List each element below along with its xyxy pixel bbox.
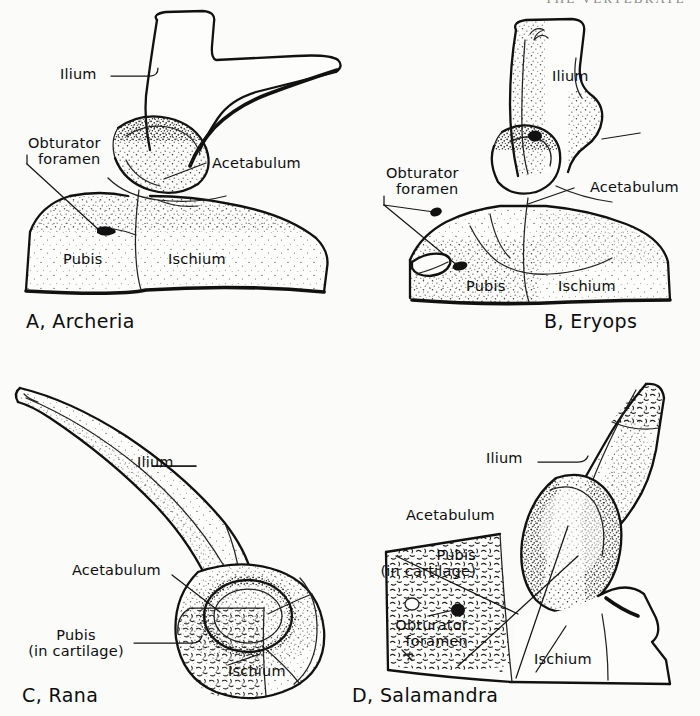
panel-d-drawing xyxy=(350,366,700,716)
label-pubis-d-line2: (in cartilage) xyxy=(354,564,476,580)
panel-c-rana: Ilium Acetabulum Pubis (in cartilage) Is… xyxy=(0,366,350,716)
panel-a-drawing xyxy=(0,0,350,350)
label-ilium-b: Ilium xyxy=(552,68,589,84)
panel-d-salamandra: Ilium Acetabulum Pubis (in cartilage) Ob… xyxy=(350,366,700,716)
label-obturator-foramen-a-line2: foramen xyxy=(28,152,101,168)
panel-a-archeria: Ilium Obturator foramen Acetabulum Pubis… xyxy=(0,0,350,350)
caption-panel-b: B, Eryops xyxy=(544,310,637,332)
panel-c-drawing xyxy=(0,366,350,716)
label-obturator-foramen-d-line2: foramen xyxy=(350,634,468,650)
caption-panel-a: A, Archeria xyxy=(26,310,135,332)
label-pubis-c-line1: Pubis xyxy=(18,628,134,644)
label-obturator-foramen-d: Obturator foramen xyxy=(350,618,468,649)
label-obturator-foramen-a: Obturator foramen xyxy=(28,136,101,167)
label-ischium-d: Ischium xyxy=(534,651,592,667)
label-acetabulum-a: Acetabulum xyxy=(212,155,301,171)
label-pubis-c: Pubis (in cartilage) xyxy=(18,628,134,659)
label-ilium-a: Ilium xyxy=(60,66,97,82)
figure-plate: THE VERTEBRATE xyxy=(0,0,700,716)
caption-panel-c: C, Rana xyxy=(22,684,98,706)
panel-b-eryops: Ilium Obturator foramen Acetabulum Pubis… xyxy=(350,0,700,350)
label-ischium-a: Ischium xyxy=(168,251,226,267)
label-obturator-foramen-a-line1: Obturator xyxy=(28,136,101,152)
label-pubis-d-line1: Pubis xyxy=(354,548,476,564)
label-obturator-foramen-b-line1: Obturator xyxy=(386,166,459,182)
label-ischium-c: Ischium xyxy=(228,663,286,679)
caption-panel-d: D, Salamandra xyxy=(352,684,498,706)
label-obturator-foramen-b: Obturator foramen xyxy=(386,166,459,197)
label-pubis-c-line2: (in cartilage) xyxy=(18,644,134,660)
label-pubis-a: Pubis xyxy=(63,251,102,267)
label-acetabulum-c: Acetabulum xyxy=(72,562,161,578)
label-pubis-d: Pubis (in cartilage) xyxy=(354,548,476,579)
label-acetabulum-d: Acetabulum xyxy=(406,507,495,523)
label-ischium-b: Ischium xyxy=(558,278,616,294)
label-pubis-b: Pubis xyxy=(466,278,505,294)
label-ilium-c: Ilium xyxy=(137,454,174,470)
label-obturator-foramen-d-line1: Obturator xyxy=(350,618,468,634)
label-obturator-foramen-b-line2: foramen xyxy=(386,182,459,198)
label-acetabulum-b: Acetabulum xyxy=(590,179,679,195)
label-ilium-d: Ilium xyxy=(486,450,523,466)
